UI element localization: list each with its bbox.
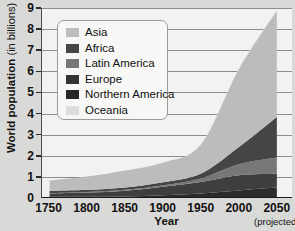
legend-swatch: [66, 44, 79, 53]
chart-figure: World population (in billions) 012345678…: [0, 0, 295, 231]
y-tick-label: 0: [27, 192, 34, 204]
legend-label: Latin America: [85, 58, 155, 70]
legend-swatch: [66, 75, 79, 84]
y-axis: World population (in billions) 012345678…: [0, 0, 41, 206]
x-tick-label: 1750: [35, 201, 62, 215]
y-tick-label: 9: [27, 2, 34, 14]
legend-swatch: [66, 28, 79, 37]
legend-item: Oceania: [66, 103, 167, 119]
legend-item: Northern America: [66, 87, 167, 103]
legend-item: Asia: [66, 25, 167, 41]
y-tick-label: 7: [27, 44, 34, 56]
y-axis-title: World population (in billions): [5, 0, 17, 163]
y-tick-label: 5: [27, 86, 34, 98]
legend-label: Africa: [85, 43, 114, 55]
y-axis-title-main: World population: [5, 59, 17, 153]
legend: AsiaAfricaLatin AmericaEuropeNorthern Am…: [57, 20, 168, 120]
legend-label: Asia: [85, 27, 107, 39]
legend-label: Oceania: [85, 105, 128, 117]
legend-item: Latin America: [66, 56, 167, 72]
x-tick-label: 1850: [111, 201, 138, 215]
x-tick-label: 2050: [263, 201, 290, 215]
x-tick-label: 1800: [73, 201, 100, 215]
legend-item: Africa: [66, 41, 167, 57]
legend-swatch: [66, 106, 79, 115]
y-tick-label: 1: [27, 171, 34, 183]
y-tick-label: 6: [27, 65, 34, 77]
y-tick-label: 2: [27, 150, 34, 162]
y-tick-label: 3: [27, 129, 34, 141]
x-axis-title: Year: [41, 215, 292, 227]
legend-label: Northern America: [85, 89, 174, 101]
legend-item: Europe: [66, 72, 167, 88]
legend-swatch: [66, 59, 79, 68]
y-axis-title-unit: (in billions): [5, 3, 17, 56]
x-tick-label: 1950: [187, 201, 214, 215]
legend-swatch: [66, 90, 79, 99]
legend-label: Europe: [85, 74, 122, 86]
x-tick-label: 2000: [225, 201, 252, 215]
y-tick-label: 8: [27, 23, 34, 35]
x-axis: 1750180018501900195020002050(projected) …: [41, 198, 292, 231]
x-tick-label: 1900: [149, 201, 176, 215]
y-tick-label: 4: [27, 108, 34, 120]
